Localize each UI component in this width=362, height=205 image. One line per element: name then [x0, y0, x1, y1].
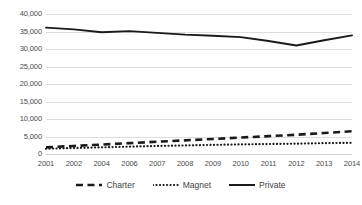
x-axis-tick-label: 2009 [205, 159, 221, 169]
y-axis-tick-label: 25,000 [0, 63, 42, 71]
x-axis-tick-label: 2008 [177, 159, 193, 169]
y-axis-tick-label: 35,000 [0, 28, 42, 36]
y-axis: 05,00010,00015,00020,00025,00030,00035,0… [0, 14, 42, 154]
x-axis-tick-label: 2004 [93, 159, 109, 169]
plot-area [46, 14, 352, 154]
legend-item-private[interactable]: Private [229, 180, 285, 190]
y-axis-tick-label: 15,000 [0, 98, 42, 106]
gridline [46, 154, 352, 155]
x-axis-tick-label: 2012 [288, 159, 304, 169]
y-axis-tick-label: 10,000 [0, 115, 42, 123]
legend-label: Charter [106, 180, 134, 190]
chart-legend: CharterMagnetPrivate [0, 180, 362, 190]
x-axis-tick-label: 2001 [38, 159, 54, 169]
dotted-line-swatch [153, 181, 179, 189]
y-axis-tick-label: 5,000 [0, 133, 42, 141]
x-axis-tick-label: 2014 [344, 159, 360, 169]
legend-label: Private [259, 180, 285, 190]
line-chart: 05,00010,00015,00020,00025,00030,00035,0… [0, 0, 362, 205]
x-axis-tick-label: 2007 [149, 159, 165, 169]
y-axis-tick-label: 40,000 [0, 10, 42, 18]
y-axis-tick-label: 30,000 [0, 45, 42, 53]
legend-item-charter[interactable]: Charter [76, 180, 134, 190]
series-line-private [46, 28, 352, 46]
x-axis-tick-label: 2002 [66, 159, 82, 169]
y-axis-tick-label: 20,000 [0, 80, 42, 88]
x-axis-tick-label: 2013 [316, 159, 332, 169]
legend-item-magnet[interactable]: Magnet [153, 180, 211, 190]
x-axis-tick-label: 2011 [261, 159, 277, 169]
series-line-magnet [46, 143, 352, 149]
solid-line-swatch [229, 181, 255, 189]
x-axis-tick-label: 2006 [121, 159, 137, 169]
series-layer [46, 14, 352, 154]
dashed-line-swatch [76, 181, 102, 189]
x-axis-tick-label: 2010 [233, 159, 249, 169]
x-axis: 2001200220042006200720082009201020112012… [46, 159, 352, 171]
legend-label: Magnet [183, 180, 211, 190]
y-axis-tick-label: 0 [0, 150, 42, 158]
